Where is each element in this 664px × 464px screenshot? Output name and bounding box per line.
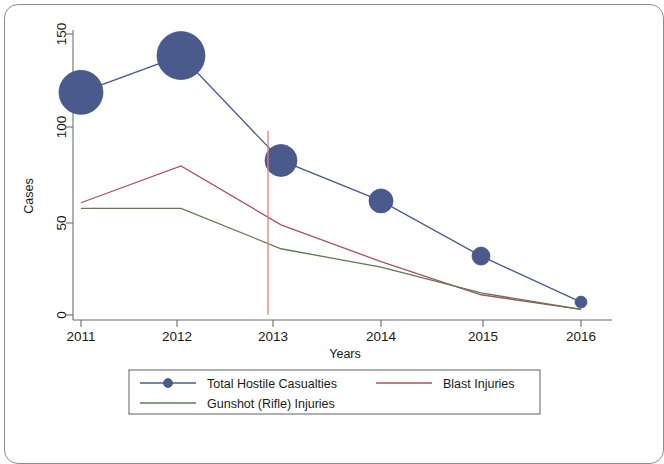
x-axis-ticks: 2011 2012 2013 2014 2015 2016 bbox=[66, 320, 596, 344]
y-axis-ticks: 150 100 50 0 bbox=[54, 23, 73, 319]
y-tick-label-150: 150 bbox=[54, 23, 69, 46]
data-point-bubble[interactable] bbox=[265, 144, 297, 176]
x-tick-label-2013: 2013 bbox=[258, 329, 288, 344]
data-point-bubble[interactable] bbox=[157, 32, 205, 80]
y-tick-label-100: 100 bbox=[54, 116, 69, 139]
x-tick-label-2014: 2014 bbox=[366, 329, 397, 344]
series-layer bbox=[59, 32, 587, 310]
series-line-0 bbox=[81, 56, 581, 303]
legend-entry-total-hostile-casualties[interactable]: Total Hostile Casualties bbox=[140, 377, 337, 391]
series-line-1 bbox=[81, 166, 581, 310]
legend-entry-blast-injuries[interactable]: Blast Injuries bbox=[376, 377, 515, 391]
legend-entry-gunshot-rifle-injuries[interactable]: Gunshot (Rifle) Injuries bbox=[140, 397, 335, 411]
x-axis-title: Years bbox=[329, 347, 361, 361]
legend-marker-0 bbox=[164, 379, 173, 388]
x-tick-label-2015: 2015 bbox=[468, 329, 498, 344]
legend-label-1: Blast Injuries bbox=[443, 377, 515, 391]
legend-label-2: Gunshot (Rifle) Injuries bbox=[207, 397, 335, 411]
legend-label-0: Total Hostile Casualties bbox=[207, 377, 337, 391]
x-tick-label-2011: 2011 bbox=[66, 329, 95, 344]
x-tick-label-2012: 2012 bbox=[162, 329, 192, 344]
x-tick-label-2016: 2016 bbox=[566, 329, 596, 344]
y-tick-label-50: 50 bbox=[54, 215, 69, 230]
data-point-bubble[interactable] bbox=[59, 70, 103, 114]
y-tick-label-0: 0 bbox=[54, 311, 69, 319]
series-line-2 bbox=[81, 208, 581, 309]
data-point-bubble[interactable] bbox=[575, 296, 587, 308]
data-point-bubble[interactable] bbox=[369, 189, 393, 213]
y-axis-title: Cases bbox=[22, 178, 36, 213]
data-point-bubble[interactable] bbox=[472, 247, 490, 265]
